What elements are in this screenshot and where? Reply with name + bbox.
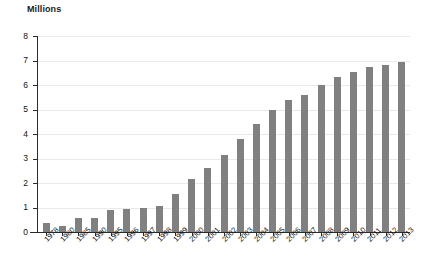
y-axis-label: 5: [6, 105, 28, 114]
gridline: [38, 36, 410, 37]
bar: [318, 85, 325, 232]
bar: [204, 168, 211, 232]
bar: [285, 100, 292, 232]
bar: [366, 67, 373, 232]
bar: [301, 95, 308, 232]
gridline: [38, 61, 410, 62]
bar: [221, 155, 228, 232]
y-axis-label: 6: [6, 81, 28, 90]
bar: [237, 139, 244, 232]
y-axis-label: 3: [6, 154, 28, 163]
bar: [140, 208, 147, 232]
plot-area: [38, 36, 410, 232]
y-axis-label: 2: [6, 179, 28, 188]
bar: [188, 179, 195, 232]
bar: [382, 65, 389, 232]
bar-chart: Millions 012345678 197819801985199019951…: [0, 0, 430, 277]
y-axis-label: 0: [6, 228, 28, 237]
y-axis-label: 8: [6, 32, 28, 41]
chart-title: Millions: [27, 4, 61, 14]
y-axis-label: 7: [6, 56, 28, 65]
bar: [269, 110, 276, 232]
bar: [172, 194, 179, 232]
bar: [350, 72, 357, 232]
y-axis-label: 4: [6, 130, 28, 139]
bar: [398, 62, 405, 232]
bar: [334, 77, 341, 232]
y-axis-label: 1: [6, 203, 28, 212]
bar: [253, 124, 260, 232]
bar: [156, 206, 163, 232]
